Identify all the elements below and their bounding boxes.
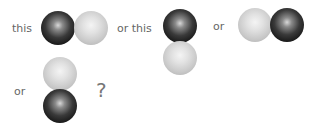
dark-sphere — [41, 11, 75, 45]
label-this: this — [12, 23, 32, 34]
label-or: or — [14, 86, 25, 97]
question-mark: ? — [96, 80, 107, 100]
label-or-this: or this — [117, 23, 152, 34]
dark-sphere — [163, 9, 197, 43]
light-sphere — [43, 57, 77, 91]
light-sphere — [163, 41, 197, 75]
light-sphere — [74, 11, 108, 45]
dark-sphere — [43, 89, 77, 123]
label-or: or — [213, 21, 224, 32]
light-sphere — [238, 8, 272, 42]
dark-sphere — [270, 8, 304, 42]
